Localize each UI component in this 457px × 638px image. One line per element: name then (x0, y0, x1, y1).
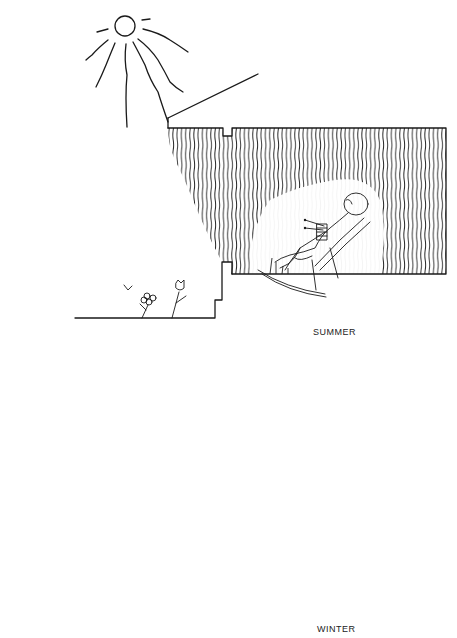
bird-icon (124, 285, 132, 290)
summer-sun-icon (86, 16, 188, 127)
summer-roof-overhang (168, 74, 258, 118)
tulip-icon (172, 280, 186, 318)
solar-diagram (0, 0, 457, 638)
flower-icon (140, 293, 156, 318)
summer-panel (75, 16, 450, 318)
summer-ground-line (75, 262, 232, 318)
winter-caption: WINTER (317, 624, 356, 634)
summer-caption: SUMMER (313, 327, 356, 337)
